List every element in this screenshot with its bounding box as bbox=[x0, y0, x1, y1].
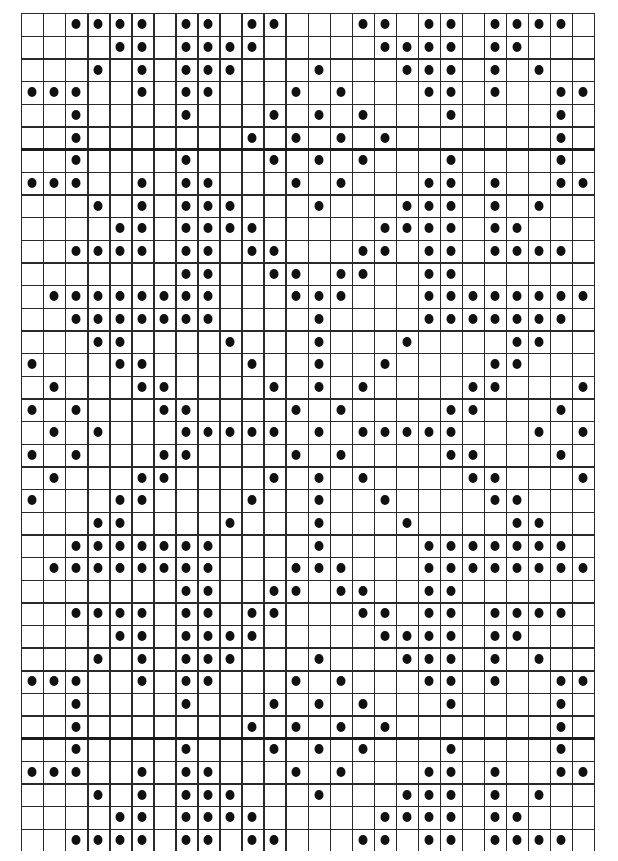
chart-cell bbox=[440, 194, 462, 217]
stitch-dot-icon bbox=[468, 450, 477, 460]
chart-cell bbox=[352, 240, 374, 263]
stitch-dot-icon bbox=[204, 178, 213, 188]
stitch-dot-icon bbox=[314, 790, 323, 800]
stitch-dot-icon bbox=[512, 812, 521, 822]
chart-cell bbox=[418, 580, 440, 603]
chart-cell bbox=[440, 58, 462, 81]
chart-cell bbox=[87, 602, 109, 625]
stitch-dot-icon bbox=[468, 563, 477, 573]
stitch-dot-icon bbox=[50, 676, 59, 686]
stitch-dot-icon bbox=[402, 518, 411, 528]
chart-cell bbox=[330, 126, 352, 149]
grid-row-line bbox=[21, 398, 595, 399]
chart-cell bbox=[197, 13, 219, 36]
stitch-dot-icon bbox=[138, 382, 147, 392]
stitch-dot-icon bbox=[204, 87, 213, 97]
stitch-dot-icon bbox=[204, 563, 213, 573]
chart-cell bbox=[153, 557, 175, 580]
chart-cell bbox=[175, 194, 197, 217]
chart-cell bbox=[440, 761, 462, 784]
chart-cell bbox=[131, 829, 153, 852]
stitch-dot-icon bbox=[556, 450, 565, 460]
chart-cell bbox=[440, 104, 462, 127]
stitch-dot-icon bbox=[556, 563, 565, 573]
chart-cell bbox=[506, 240, 528, 263]
stitch-dot-icon bbox=[50, 87, 59, 97]
chart-cell bbox=[484, 783, 506, 806]
chart-cell bbox=[263, 149, 285, 172]
stitch-dot-icon bbox=[534, 790, 543, 800]
chart-cell bbox=[352, 580, 374, 603]
stitch-dot-icon bbox=[138, 223, 147, 233]
stitch-dot-icon bbox=[138, 790, 147, 800]
stitch-dot-icon bbox=[292, 722, 301, 732]
stitch-dot-icon bbox=[248, 246, 257, 256]
stitch-dot-icon bbox=[314, 314, 323, 324]
chart-cell bbox=[528, 285, 550, 308]
chart-cell bbox=[131, 194, 153, 217]
stitch-dot-icon bbox=[490, 359, 499, 369]
stitch-dot-icon bbox=[534, 563, 543, 573]
stitch-dot-icon bbox=[424, 767, 433, 777]
stitch-dot-icon bbox=[28, 495, 37, 505]
chart-cell bbox=[263, 829, 285, 852]
stitch-dot-icon bbox=[182, 812, 191, 822]
stitch-dot-icon bbox=[204, 608, 213, 618]
chart-cell bbox=[175, 444, 197, 467]
chart-cell bbox=[131, 534, 153, 557]
stitch-dot-icon bbox=[512, 314, 521, 324]
chart-cell bbox=[330, 444, 352, 467]
stitch-dot-icon bbox=[138, 473, 147, 483]
chart-cell bbox=[241, 806, 263, 829]
chart-cell bbox=[308, 693, 330, 716]
stitch-dot-icon bbox=[204, 246, 213, 256]
chart-cell bbox=[241, 602, 263, 625]
stitch-dot-icon bbox=[358, 427, 367, 437]
stitch-dot-icon bbox=[534, 291, 543, 301]
chart-cell bbox=[506, 557, 528, 580]
chart-cell bbox=[197, 647, 219, 670]
chart-cell bbox=[572, 81, 594, 104]
stitch-dot-icon bbox=[512, 246, 521, 256]
chart-cell bbox=[484, 489, 506, 512]
stitch-dot-icon bbox=[292, 133, 301, 143]
stitch-dot-icon bbox=[336, 586, 345, 596]
chart-cell bbox=[572, 466, 594, 489]
stitch-dot-icon bbox=[490, 65, 499, 75]
chart-cell bbox=[308, 149, 330, 172]
chart-cell bbox=[374, 625, 396, 648]
chart-cell bbox=[263, 104, 285, 127]
chart-cell bbox=[374, 217, 396, 240]
stitch-dot-icon bbox=[336, 676, 345, 686]
stitch-dot-icon bbox=[490, 608, 499, 618]
stitch-dot-icon bbox=[204, 314, 213, 324]
chart-cell bbox=[197, 625, 219, 648]
chart-cell bbox=[197, 194, 219, 217]
chart-cell bbox=[87, 512, 109, 535]
chart-cell bbox=[285, 172, 307, 195]
stitch-dot-icon bbox=[358, 835, 367, 845]
chart-cell bbox=[153, 534, 175, 557]
stitch-dot-icon bbox=[270, 19, 279, 29]
chart-cell bbox=[153, 444, 175, 467]
stitch-dot-icon bbox=[248, 495, 257, 505]
chart-cell bbox=[219, 330, 241, 353]
stitch-dot-icon bbox=[490, 654, 499, 664]
chart-cell bbox=[131, 647, 153, 670]
chart-cell bbox=[131, 761, 153, 784]
chart-cell bbox=[65, 126, 87, 149]
stitch-dot-icon bbox=[446, 201, 455, 211]
stitch-dot-icon bbox=[72, 110, 81, 120]
stitch-dot-icon bbox=[182, 201, 191, 211]
stitch-dot-icon bbox=[28, 450, 37, 460]
chart-cell bbox=[308, 58, 330, 81]
chart-cell bbox=[440, 738, 462, 761]
stitch-dot-icon bbox=[204, 790, 213, 800]
chart-cell bbox=[550, 534, 572, 557]
chart-cell bbox=[175, 806, 197, 829]
chart-cell bbox=[175, 829, 197, 852]
stitch-dot-icon bbox=[402, 654, 411, 664]
chart-cell bbox=[308, 534, 330, 557]
stitch-dot-icon bbox=[556, 405, 565, 415]
stitch-dot-icon bbox=[182, 586, 191, 596]
